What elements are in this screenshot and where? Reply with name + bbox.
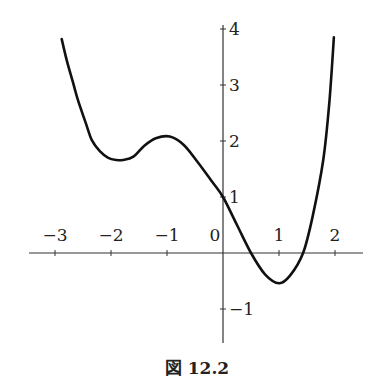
x-ticks: −3−2−1012 — [42, 225, 340, 256]
figure-caption: 図 12.2 — [165, 358, 229, 378]
x-tick-label: 0 — [210, 225, 221, 245]
y-tick-label: 1 — [229, 187, 240, 207]
axes: −3−2−1012 4321−1 — [29, 19, 363, 343]
x-tick-label: −2 — [98, 225, 123, 245]
x-tick-label: 1 — [274, 225, 285, 245]
x-tick-label: −1 — [154, 225, 179, 245]
y-tick-label: 4 — [229, 19, 240, 39]
y-tick-label: 3 — [229, 75, 240, 95]
x-tick-label: 2 — [330, 225, 341, 245]
y-ticks: 4321−1 — [220, 19, 254, 319]
y-tick-label: −1 — [229, 299, 254, 319]
x-tick-label: −3 — [42, 225, 67, 245]
function-plot: −3−2−1012 4321−1 図 12.2 — [0, 0, 385, 386]
function-curve — [62, 37, 334, 283]
y-tick-label: 2 — [229, 131, 240, 151]
